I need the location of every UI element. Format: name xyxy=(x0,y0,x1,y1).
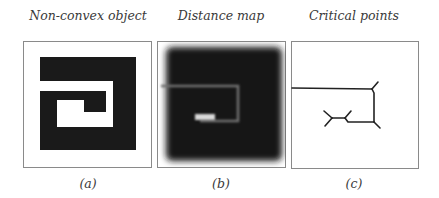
panel-b-distance-map xyxy=(157,41,286,168)
panel-c-title: Critical points xyxy=(309,8,399,23)
panel-c-critical-points xyxy=(291,41,419,169)
panel-b-title: Distance map xyxy=(178,8,265,23)
panel-a-nonconvex-object xyxy=(23,41,152,168)
panel-c-caption: (c) xyxy=(346,176,363,191)
nonconvex-object-image xyxy=(23,41,152,168)
panel-a-title: Non-convex object xyxy=(29,8,147,23)
distance-map-image xyxy=(157,41,286,168)
critical-points-skeleton-image xyxy=(291,41,419,169)
panel-b-caption: (b) xyxy=(212,176,230,191)
panel-a-caption: (a) xyxy=(79,176,96,191)
